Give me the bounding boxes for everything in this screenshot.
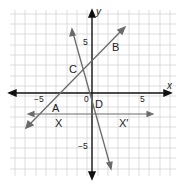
y-tick-5: 5	[83, 37, 88, 47]
tick-labels: −5 5 5 −5 0 x y	[34, 6, 173, 151]
point-labels: A B C D X X′	[52, 41, 128, 129]
x-axis-label: x	[166, 80, 173, 91]
point-d-label: D	[95, 98, 103, 110]
point-x-label: X	[55, 117, 63, 129]
point-a-label: A	[52, 102, 60, 114]
y-tick-neg5: −5	[78, 141, 88, 151]
coordinate-plane: −5 5 5 −5 0 x y A B C D X X′	[0, 0, 184, 188]
point-b-label: B	[112, 41, 119, 53]
x-tick-5: 5	[140, 94, 145, 104]
x-tick-neg5: −5	[34, 94, 44, 104]
point-x-prime-label: X′	[119, 117, 128, 129]
line-xx-prime	[28, 112, 153, 117]
point-c-label: C	[69, 63, 77, 75]
y-axis-label: y	[95, 6, 102, 17]
origin-label: 0	[84, 94, 89, 104]
